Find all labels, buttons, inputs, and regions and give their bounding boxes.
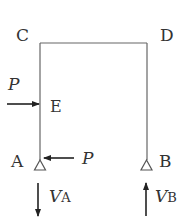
node-label-c: C bbox=[16, 25, 29, 45]
portal-frame-diagram: C D E A B P P VA VB bbox=[0, 0, 182, 219]
load-label-p-a: P bbox=[81, 148, 94, 168]
reaction-label-vb: VB bbox=[155, 186, 177, 206]
pin-support-b-icon bbox=[141, 160, 152, 170]
node-label-d: D bbox=[160, 25, 174, 45]
node-label-e: E bbox=[50, 97, 62, 116]
pin-support-a-icon bbox=[35, 160, 46, 170]
reaction-label-va: VA bbox=[49, 186, 71, 206]
load-label-p-e: P bbox=[7, 74, 20, 94]
node-label-a: A bbox=[10, 151, 24, 171]
node-label-b: B bbox=[159, 151, 172, 171]
